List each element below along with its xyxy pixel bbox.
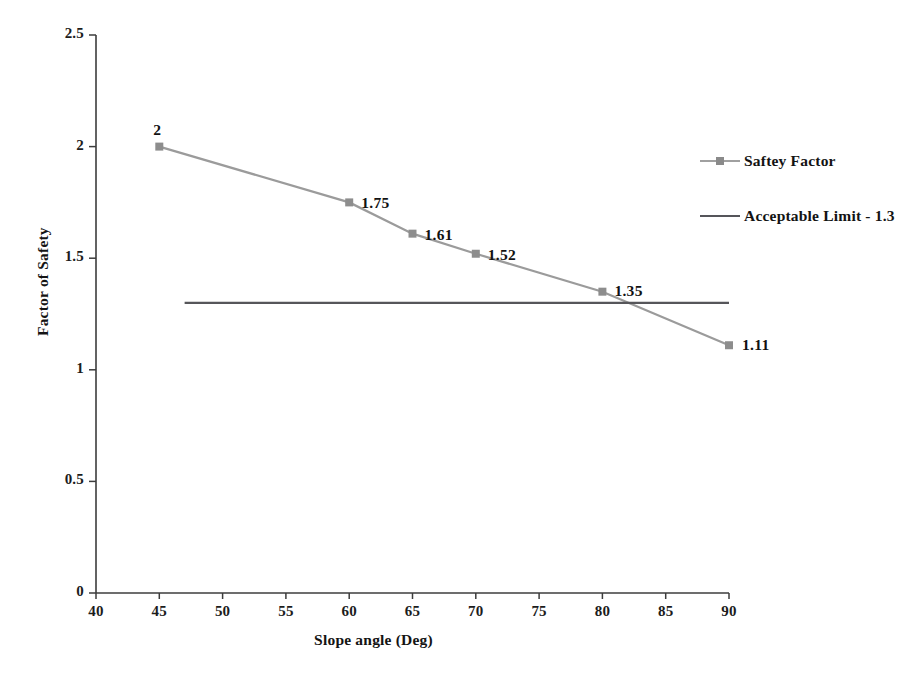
y-tick-label: 1.5 <box>20 248 84 265</box>
data-point-value-label: 1.52 <box>488 246 516 264</box>
data-point-value-label: 1.11 <box>742 336 769 354</box>
y-axis-title: Factor of Safety <box>34 228 52 337</box>
data-point-marker <box>345 198 353 206</box>
y-tick-label: 2 <box>20 137 84 154</box>
chart-container: 2.521.510.50 4045505560657075808590 Fact… <box>0 0 907 678</box>
legend-item-acceptable-limit[interactable]: Acceptable Limit - 1.3 <box>700 207 895 225</box>
x-axis-ticks <box>96 593 729 599</box>
safety-factor-markers <box>155 143 733 350</box>
safety-factor-line <box>159 147 729 346</box>
legend-swatch-line-marker-icon <box>700 155 740 167</box>
data-point-marker <box>155 143 163 151</box>
data-point-value-label: 1.61 <box>425 226 453 244</box>
legend-item-safety-factor[interactable]: Saftey Factor <box>700 152 836 170</box>
axis-lines <box>96 35 729 593</box>
x-tick-label: 40 <box>71 603 121 620</box>
x-tick-label: 60 <box>324 603 374 620</box>
legend-label-acceptable-limit: Acceptable Limit - 1.3 <box>744 207 895 225</box>
data-point-value-label: 1.35 <box>614 282 642 300</box>
x-tick-label: 70 <box>451 603 501 620</box>
data-point-marker <box>725 341 733 349</box>
x-tick-label: 65 <box>388 603 438 620</box>
data-point-value-label: 1.75 <box>361 194 389 212</box>
legend-label-safety-factor: Saftey Factor <box>744 152 836 170</box>
x-tick-label: 85 <box>641 603 691 620</box>
data-point-marker <box>409 230 417 238</box>
data-point-value-label: 2 <box>153 121 161 139</box>
y-tick-label: 2.5 <box>20 25 84 42</box>
y-tick-label: 0 <box>20 583 84 600</box>
x-axis-title: Slope angle (Deg) <box>0 631 827 649</box>
x-tick-label: 80 <box>577 603 627 620</box>
x-tick-label: 45 <box>134 603 184 620</box>
legend-swatch-line-icon <box>700 210 740 222</box>
chart-plot-area <box>0 0 907 678</box>
x-tick-label: 75 <box>514 603 564 620</box>
y-axis-ticks <box>89 35 96 593</box>
x-tick-label: 50 <box>198 603 248 620</box>
data-point-marker <box>598 288 606 296</box>
y-tick-label: 1 <box>20 360 84 377</box>
x-tick-label: 55 <box>261 603 311 620</box>
data-point-marker <box>472 250 480 258</box>
y-tick-label: 0.5 <box>20 471 84 488</box>
x-tick-label: 90 <box>704 603 754 620</box>
